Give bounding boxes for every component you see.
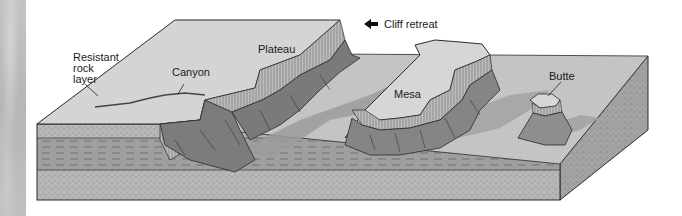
landform-block-diagram <box>0 0 682 216</box>
label-butte: Butte <box>549 70 575 82</box>
label-canyon: Canyon <box>172 66 210 78</box>
arrow-left-icon <box>364 19 378 29</box>
label-resistant-rock-line3: layer <box>73 73 97 85</box>
label-cliff-retreat: Cliff retreat <box>384 18 438 30</box>
label-plateau: Plateau <box>258 43 295 55</box>
label-mesa: Mesa <box>394 88 421 100</box>
layer-base-sandstone <box>37 170 560 200</box>
